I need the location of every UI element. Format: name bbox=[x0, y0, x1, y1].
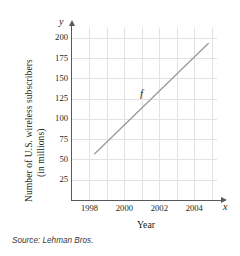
y-axis-line bbox=[71, 26, 72, 201]
source-note: Source: Lehman Bros. bbox=[12, 236, 93, 245]
gridline-vertical bbox=[124, 28, 125, 200]
y-axis-tick-label: 175 bbox=[42, 53, 68, 63]
y-axis-tick-label: 125 bbox=[42, 93, 68, 103]
y-axis-tick-label: 50 bbox=[42, 154, 68, 164]
chart-figure: Number of U.S. wireless subscribers (in … bbox=[0, 0, 240, 256]
y-axis-title-line-1: Number of U.S. wireless subscribers bbox=[24, 59, 34, 202]
y-axis-title: Number of U.S. wireless subscribers (in … bbox=[14, 20, 36, 205]
gridline-horizontal bbox=[72, 119, 217, 120]
y-axis-tick-label: 75 bbox=[42, 134, 68, 144]
gridline-vertical bbox=[159, 28, 160, 200]
plot-area bbox=[72, 28, 217, 200]
y-axis-tick-label: 200 bbox=[42, 32, 68, 42]
gridline-vertical bbox=[89, 28, 90, 200]
y-axis-tick-label: 25 bbox=[42, 174, 68, 184]
gridline-horizontal bbox=[72, 159, 217, 160]
y-axis-tick-label: 150 bbox=[42, 73, 68, 83]
gridline-horizontal bbox=[72, 78, 217, 79]
gridline-horizontal bbox=[72, 38, 217, 39]
gridline-vertical bbox=[107, 28, 108, 200]
gridline-vertical bbox=[194, 28, 195, 200]
gridline-vertical bbox=[177, 28, 178, 200]
x-axis-title: Year bbox=[72, 219, 220, 230]
x-axis-tick-label: 2004 bbox=[174, 203, 214, 213]
y-axis-tick-label: 100 bbox=[42, 113, 68, 123]
y-axis-variable-label: y bbox=[59, 16, 63, 27]
y-axis-arrow-icon bbox=[69, 20, 75, 26]
gridline-horizontal bbox=[72, 180, 217, 181]
series-annotation-f: f bbox=[140, 87, 143, 99]
x-axis-variable-label: x bbox=[223, 201, 227, 212]
gridline-horizontal bbox=[72, 99, 217, 100]
x-axis-line bbox=[72, 200, 222, 201]
gridline-horizontal bbox=[72, 139, 217, 140]
gridline-horizontal bbox=[72, 58, 217, 59]
gridline-vertical bbox=[212, 28, 213, 200]
y-axis-tick-labels: 255075100125150175200 bbox=[40, 0, 68, 256]
gridline-vertical bbox=[142, 28, 143, 200]
